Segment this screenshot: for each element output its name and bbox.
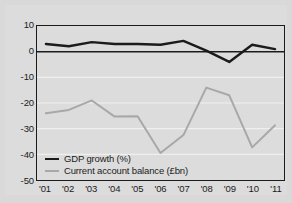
series-line-current-account-balance bbox=[46, 88, 275, 153]
x-axis-tick-label: '06 bbox=[149, 183, 173, 195]
legend-item-gdp-growth: GDP growth (%) bbox=[45, 153, 205, 164]
x-axis-tick-label: '02 bbox=[56, 183, 80, 195]
legend-item-current-account-balance: Current account balance (£bn) bbox=[45, 165, 205, 176]
x-axis-tick-label: '05 bbox=[125, 183, 149, 195]
x-axis-tick-label: '09 bbox=[218, 183, 242, 195]
chart-figure: 100-10-20-30-40-50 '01'02'03'04'05'06'07… bbox=[0, 0, 292, 203]
chart-legend: GDP growth (%) Current account balance (… bbox=[45, 153, 205, 179]
y-axis-tick-label: -40 bbox=[8, 150, 34, 160]
legend-label-gdp-growth: GDP growth (%) bbox=[64, 153, 131, 164]
gridlines bbox=[37, 52, 284, 155]
x-axis-tick-label: '11 bbox=[264, 183, 288, 195]
y-axis-tick-label: 0 bbox=[8, 46, 34, 56]
chart-panel: 100-10-20-30-40-50 '01'02'03'04'05'06'07… bbox=[5, 5, 287, 195]
y-axis-tick-label: 10 bbox=[8, 20, 34, 30]
y-axis-labels: 100-10-20-30-40-50 bbox=[5, 25, 34, 181]
y-axis-tick-label: -10 bbox=[8, 72, 34, 82]
y-axis-tick-label: -30 bbox=[8, 124, 34, 134]
legend-label-current-account-balance: Current account balance (£bn) bbox=[64, 165, 188, 176]
legend-swatch-icon-gdp-growth bbox=[45, 158, 59, 160]
x-axis-tick-label: '03 bbox=[79, 183, 103, 195]
x-axis-tick-label: '10 bbox=[241, 183, 265, 195]
x-axis-tick-label: '04 bbox=[102, 183, 126, 195]
x-axis-tick-label: '01 bbox=[33, 183, 57, 195]
x-axis-tick-label: '07 bbox=[172, 183, 196, 195]
x-axis-labels: '01'02'03'04'05'06'07'08'09'10'11 bbox=[36, 183, 285, 199]
legend-swatch-icon-current-account-balance bbox=[45, 170, 59, 172]
x-axis-tick-label: '08 bbox=[195, 183, 219, 195]
y-axis-tick-label: -20 bbox=[8, 98, 34, 108]
y-axis-tick-label: -50 bbox=[8, 176, 34, 186]
